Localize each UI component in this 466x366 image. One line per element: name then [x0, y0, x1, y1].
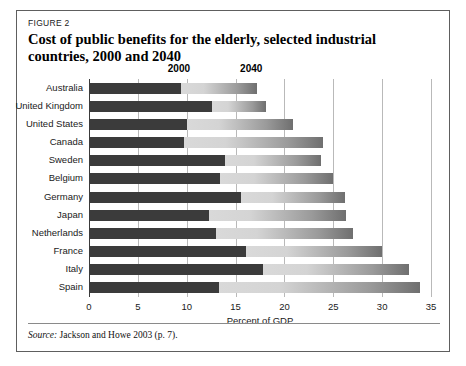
legend-label-2040: 2040	[240, 63, 262, 74]
bar-row: Belgium	[89, 173, 333, 184]
category-label-australia: Australia	[46, 81, 83, 95]
category-label-united-states: United States	[26, 117, 83, 131]
bar-segment-2000	[89, 83, 181, 94]
bar-segment-2000	[89, 119, 187, 130]
category-label-netherlands: Netherlands	[32, 226, 83, 240]
bar-segment-2000	[89, 210, 209, 221]
figure-panel: FIGURE 2 Cost of public benefits for the…	[16, 10, 450, 352]
bar-row: Japan	[89, 210, 346, 221]
bar-segment-2040	[263, 264, 409, 275]
x-tick-label-25: 25	[328, 301, 339, 312]
category-label-france: France	[53, 244, 83, 258]
bar-row: Sweden	[89, 155, 321, 166]
bar-chart-plot-area: 20002040 AustraliaUnited KingdomUnited S…	[89, 79, 431, 297]
bar-segment-2000	[89, 228, 216, 239]
bar-row: France	[89, 246, 382, 257]
bar-row: Italy	[89, 264, 409, 275]
x-tick-label-15: 15	[230, 301, 241, 312]
gridline-35	[431, 79, 432, 297]
bar-segment-2040	[241, 192, 345, 203]
source-label: Source:	[28, 330, 57, 340]
x-tick-label-30: 30	[377, 301, 388, 312]
figure-number-label: FIGURE 2	[28, 18, 70, 28]
bar-segment-2040	[181, 83, 257, 94]
category-label-germany: Germany	[44, 190, 83, 204]
bar-segment-2000	[89, 282, 219, 293]
x-axis-title: Percent of GDP	[89, 315, 431, 326]
source-divider	[28, 323, 440, 324]
bar-segment-2040	[209, 210, 346, 221]
x-tick-label-0: 0	[86, 301, 91, 312]
bar-row: United States	[89, 119, 293, 130]
bar-segment-2000	[89, 192, 241, 203]
x-tick-label-20: 20	[279, 301, 290, 312]
bar-segment-2000	[89, 173, 220, 184]
category-label-belgium: Belgium	[49, 171, 83, 185]
bar-row: Germany	[89, 192, 345, 203]
bar-segment-2040	[219, 282, 420, 293]
bar-segment-2000	[89, 246, 246, 257]
bar-segment-2040	[184, 137, 323, 148]
category-label-united-kingdom: United Kingdom	[15, 99, 83, 113]
source-note: Source: Jackson and Howe 2003 (p. 7).	[28, 330, 178, 340]
x-tick-label-10: 10	[181, 301, 192, 312]
category-label-sweden: Sweden	[49, 153, 83, 167]
category-label-japan: Japan	[57, 208, 83, 222]
bar-row: United Kingdom	[89, 101, 266, 112]
bar-row: Australia	[89, 83, 257, 94]
bar-segment-2000	[89, 155, 225, 166]
x-tick-label-5: 5	[135, 301, 140, 312]
x-tick-label-35: 35	[426, 301, 437, 312]
bar-segment-2040	[216, 228, 353, 239]
source-citation: Jackson and Howe 2003 (p. 7).	[57, 330, 177, 340]
bar-row: Spain	[89, 282, 420, 293]
bar-segment-2040	[246, 246, 382, 257]
bar-segment-2040	[225, 155, 321, 166]
bar-row: Netherlands	[89, 228, 353, 239]
category-label-italy: Italy	[66, 262, 83, 276]
category-label-spain: Spain	[59, 280, 83, 294]
category-label-canada: Canada	[50, 135, 83, 149]
bar-segment-2040	[187, 119, 294, 130]
bar-segment-2040	[220, 173, 333, 184]
bar-row: Canada	[89, 137, 323, 148]
bar-segment-2000	[89, 101, 212, 112]
bar-segment-2000	[89, 264, 263, 275]
bar-segment-2000	[89, 137, 184, 148]
legend-label-2000: 2000	[168, 63, 190, 74]
bar-segment-2040	[212, 101, 266, 112]
figure-title: Cost of public benefits for the elderly,…	[28, 31, 440, 65]
